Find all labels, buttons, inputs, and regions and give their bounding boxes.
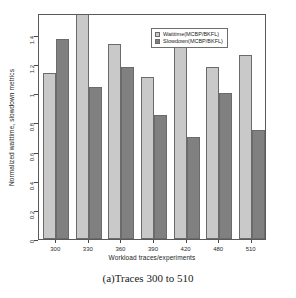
bar-group — [108, 44, 134, 239]
bar-group — [206, 67, 232, 239]
x-axis-tick-label: 390 — [148, 246, 158, 252]
bar-group — [174, 31, 200, 240]
x-axis-tick — [120, 240, 121, 243]
bar-group — [76, 14, 102, 239]
y-axis-tick-label: 0.4 — [29, 182, 35, 190]
y-axis-tick-label: 0 — [29, 240, 35, 243]
legend-swatch-waittime-icon — [155, 32, 160, 37]
legend-swatch-slowdown-icon — [155, 39, 160, 44]
y-axis: 00.20.40.60.811.21.4 — [0, 14, 38, 240]
x-axis-tick-label: 330 — [83, 246, 93, 252]
bar-waittime — [43, 73, 56, 239]
figure-caption: (a)Traces 300 to 510 — [0, 272, 296, 284]
bar-group — [43, 39, 69, 239]
bar-slowdown — [252, 130, 265, 239]
x-axis-tick — [55, 240, 56, 243]
legend-item-waittime: Waittime(MCBP/BKFL) — [155, 31, 223, 38]
bar-slowdown — [89, 87, 102, 239]
x-axis-tick — [186, 240, 187, 243]
bar-waittime — [239, 55, 252, 239]
x-axis-tick — [251, 240, 252, 243]
x-axis-tick — [88, 240, 89, 243]
bar-group — [239, 55, 265, 239]
x-axis-tick — [153, 240, 154, 243]
legend-label-slowdown: Slowdown(MCBP/BKFL) — [163, 38, 223, 45]
y-axis-tick-label: 0.6 — [29, 153, 35, 161]
y-axis-tick-label: 1.2 — [29, 65, 35, 73]
bar-waittime — [141, 77, 154, 239]
legend-label-waittime: Waittime(MCBP/BKFL) — [163, 31, 219, 38]
x-axis-title: Workload traces/experiments — [38, 254, 266, 261]
x-axis-tick-label: 480 — [213, 246, 223, 252]
x-axis-tick — [218, 240, 219, 243]
bar-slowdown — [219, 93, 232, 239]
bar-waittime — [108, 44, 121, 239]
bar-slowdown — [121, 67, 134, 239]
y-axis-tick-label: 1.4 — [29, 36, 35, 44]
bar-slowdown — [187, 137, 200, 239]
bar-waittime — [206, 67, 219, 239]
x-axis-tick-label: 300 — [50, 246, 60, 252]
figure-container: Normalized waittime, slowdown metrics 00… — [0, 0, 296, 298]
legend-item-slowdown: Slowdown(MCBP/BKFL) — [155, 38, 223, 45]
y-axis-tick-label: 1 — [29, 94, 35, 97]
bar-slowdown — [154, 115, 167, 239]
bar-group — [141, 77, 167, 239]
bar-waittime — [174, 31, 187, 240]
bar-waittime — [76, 14, 89, 239]
x-axis-tick-label: 510 — [246, 246, 256, 252]
plot-area: Waittime(MCBP/BKFL) Slowdown(MCBP/BKFL) — [38, 14, 266, 240]
chart-legend: Waittime(MCBP/BKFL) Slowdown(MCBP/BKFL) — [151, 28, 228, 48]
y-axis-tick-label: 0.8 — [29, 123, 35, 131]
x-axis-tick-label: 360 — [115, 246, 125, 252]
y-axis-tick-label: 0.2 — [29, 211, 35, 219]
bar-slowdown — [56, 39, 69, 239]
x-axis-tick-label: 420 — [181, 246, 191, 252]
